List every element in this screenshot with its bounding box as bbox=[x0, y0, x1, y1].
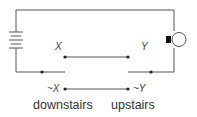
light-bulb-icon bbox=[166, 33, 186, 47]
right-wire bbox=[128, 48, 174, 72]
notx-contact-dot bbox=[63, 87, 66, 90]
battery-icon bbox=[9, 32, 23, 48]
top-wire bbox=[16, 10, 174, 31]
downstairs-common-dot bbox=[40, 70, 43, 73]
circuit-diagram bbox=[0, 0, 197, 117]
label-y: Y bbox=[141, 42, 148, 52]
label-x: X bbox=[55, 42, 62, 52]
noty-contact-dot bbox=[126, 87, 129, 90]
label-not-y: ~Y bbox=[133, 84, 146, 94]
label-not-x: ~X bbox=[47, 84, 60, 94]
caption-upstairs: upstairs bbox=[111, 99, 155, 112]
y-contact-dot bbox=[126, 55, 129, 58]
caption-downstairs: downstairs bbox=[33, 99, 93, 112]
x-contact-dot bbox=[63, 55, 66, 58]
upstairs-common-dot bbox=[149, 70, 152, 73]
